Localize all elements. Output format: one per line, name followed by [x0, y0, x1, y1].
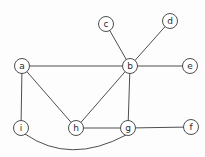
- node-g: g: [121, 121, 136, 136]
- node-label: a: [19, 61, 25, 71]
- edge-a-i: [21, 66, 22, 128]
- edge-b-h: [76, 66, 130, 128]
- node-h: h: [69, 121, 84, 136]
- node-label: c: [104, 19, 109, 29]
- node-label: g: [125, 123, 131, 133]
- node-b: b: [123, 59, 138, 74]
- node-a: a: [15, 59, 30, 74]
- edge-b-g: [128, 66, 130, 128]
- node-f: f: [184, 120, 199, 135]
- node-label: d: [167, 16, 173, 26]
- node-e: e: [183, 59, 198, 74]
- edge-g-f: [128, 127, 191, 128]
- edges-layer: [21, 21, 191, 150]
- node-i: i: [14, 121, 29, 136]
- node-d: d: [163, 14, 178, 29]
- graph-canvas: abcdeihgf: [0, 0, 205, 157]
- graph-diagram: abcdeihgf: [0, 0, 205, 157]
- node-label: h: [73, 123, 79, 133]
- nodes-layer: abcdeihgf: [14, 14, 199, 136]
- node-label: b: [127, 61, 133, 71]
- node-c: c: [99, 17, 114, 32]
- node-label: e: [187, 61, 193, 71]
- node-label: i: [20, 123, 23, 133]
- edge-a-h: [22, 66, 76, 128]
- edge-b-d: [130, 21, 170, 66]
- edge-i-g: [25, 134, 126, 150]
